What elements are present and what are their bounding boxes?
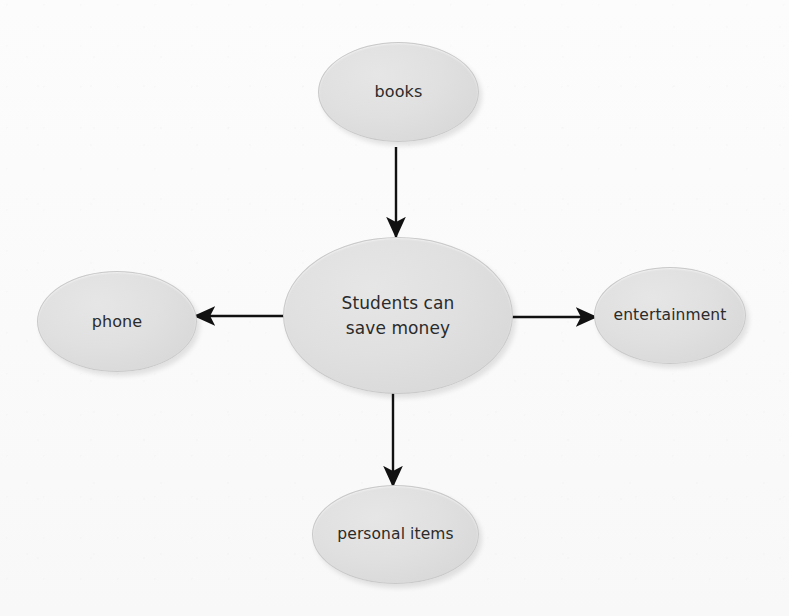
node-entertainment[interactable]: entertainment xyxy=(594,267,746,364)
node-phone[interactable]: phone xyxy=(37,271,197,372)
node-entertainment-label: entertainment xyxy=(614,305,727,325)
node-books[interactable]: books xyxy=(318,42,479,142)
node-center-label: Students can save money xyxy=(342,291,455,340)
node-phone-label: phone xyxy=(92,311,143,332)
node-personal-items-label: personal items xyxy=(337,524,453,544)
node-center-topic[interactable]: Students can save money xyxy=(283,237,513,394)
node-books-label: books xyxy=(375,81,423,102)
concept-map-canvas: Students can save money books phone ente… xyxy=(0,0,789,616)
node-personal-items[interactable]: personal items xyxy=(312,485,479,584)
